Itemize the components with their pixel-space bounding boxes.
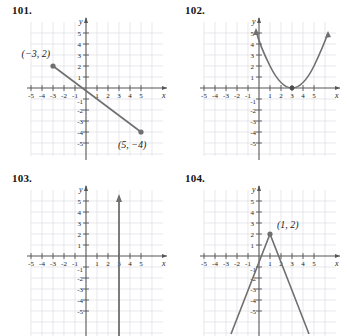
problem-panel-102: 102. (173, 0, 346, 168)
graph-104: -5 -4 -3 -2 -1 1 2 3 4 5 5 4 3 2 1 -1 -2… (173, 168, 346, 336)
y-tick--5: -5 (77, 308, 83, 316)
vertex-marker-104 (267, 231, 272, 236)
vertical-line-arrow-103 (116, 194, 122, 202)
point-label-5-neg4: (5, −4) (118, 139, 147, 151)
x-tick--2: -2 (234, 92, 240, 100)
y-axis-arrow-104 (257, 185, 261, 191)
parabola-arrow-right-102 (325, 31, 331, 38)
y-tick-4: 4 (251, 209, 255, 217)
y-axis-label-101: y (78, 17, 83, 26)
y-tick--1: -1 (77, 266, 83, 274)
x-tick-1: 1 (268, 92, 272, 100)
y-tick--5: -5 (250, 308, 256, 316)
y-tick--3: -3 (250, 286, 256, 294)
y-tick--2: -2 (77, 275, 83, 283)
x-tick-4: 4 (128, 92, 132, 100)
y-tick--3: -3 (250, 118, 256, 126)
x-tick--2: -2 (234, 260, 240, 268)
graph-101: -5 -4 -3 -2 -1 1 2 3 4 5 5 4 3 2 1 -1 -2… (0, 0, 173, 168)
y-tick--4: -4 (77, 297, 83, 305)
y-tick-2: 2 (78, 63, 82, 71)
endpoint-marker-a-101 (50, 63, 55, 68)
x-tick--2: -2 (61, 92, 67, 100)
point-label-neg3-2: (−3, 2) (22, 48, 51, 60)
y-tick--2: -2 (250, 107, 256, 115)
x-tick-5: 5 (139, 92, 143, 100)
x-tick-3: 3 (117, 92, 121, 100)
y-tick--5: -5 (77, 140, 83, 148)
y-tick-1: 1 (251, 74, 255, 82)
x-axis-arrow-104 (335, 254, 340, 258)
y-tick--1: -1 (77, 98, 83, 106)
vertex-marker-102 (290, 86, 295, 91)
y-tick--3: -3 (77, 286, 83, 294)
x-tick-5: 5 (139, 260, 143, 268)
x-tick-5: 5 (312, 260, 316, 268)
x-tick-3: 3 (290, 92, 294, 100)
x-tick--5: -5 (201, 260, 207, 268)
x-tick-2: 2 (279, 92, 283, 100)
y-tick--4: -4 (250, 129, 256, 137)
y-tick--1: -1 (250, 98, 256, 106)
textbook-graph-page: { "page": { "background_color": "#ffffff… (0, 0, 347, 336)
x-tick--2: -2 (61, 260, 67, 268)
x-axis-arrow-102 (335, 86, 340, 90)
x-tick-2: 2 (106, 92, 110, 100)
x-tick--5: -5 (28, 260, 34, 268)
x-tick-3: 3 (290, 260, 294, 268)
x-axis-label-103: x (161, 259, 166, 268)
problem-panel-101: 101. (0, 0, 173, 168)
y-tick-2: 2 (78, 231, 82, 239)
y-tick-1: 1 (78, 74, 82, 82)
x-axis-arrow-101 (162, 86, 167, 90)
x-tick--5: -5 (201, 92, 207, 100)
y-tick-5: 5 (78, 30, 82, 38)
x-tick--4: -4 (39, 260, 45, 268)
y-tick-3: 3 (251, 52, 255, 60)
y-tick-3: 3 (78, 220, 82, 228)
y-tick-2: 2 (251, 231, 255, 239)
x-axis-arrow-103 (162, 254, 167, 258)
x-axis-label-101: x (161, 91, 166, 100)
y-axis-arrow-103 (84, 185, 88, 191)
y-axis-arrow-101 (84, 17, 88, 23)
y-axis-label-103: y (78, 185, 83, 194)
y-tick-4: 4 (78, 41, 82, 49)
x-tick--3: -3 (223, 260, 229, 268)
x-tick--4: -4 (212, 260, 218, 268)
y-axis-arrow-102 (257, 17, 261, 23)
x-tick-4: 4 (301, 260, 305, 268)
graph-102: -5 -4 -3 -2 -1 1 2 3 4 5 5 4 3 2 1 -1 -2… (173, 0, 346, 168)
problem-panel-104: 104. (173, 168, 346, 336)
graph-103: -5 -4 -3 -2 -1 1 2 3 4 5 5 4 3 2 1 -1 -2… (0, 168, 173, 336)
y-tick-4: 4 (251, 41, 255, 49)
x-tick-4: 4 (128, 260, 132, 268)
point-label-1-2: (1, 2) (277, 219, 299, 231)
y-tick-5: 5 (251, 198, 255, 206)
y-axis-label-102: y (251, 17, 256, 26)
y-tick--5: -5 (250, 140, 256, 148)
x-tick--4: -4 (39, 92, 45, 100)
endpoint-marker-b-101 (138, 129, 143, 134)
x-tick--4: -4 (212, 92, 218, 100)
y-tick-3: 3 (78, 52, 82, 60)
y-axis-label-104: y (251, 185, 256, 194)
x-axis-label-104: x (334, 259, 339, 268)
y-tick-1: 1 (251, 242, 255, 250)
y-tick--4: -4 (77, 129, 83, 137)
x-tick--3: -3 (50, 260, 56, 268)
y-tick-3: 3 (251, 220, 255, 228)
y-tick-5: 5 (78, 198, 82, 206)
x-axis-label-102: x (334, 91, 339, 100)
y-tick--4: -4 (250, 297, 256, 305)
problem-panel-103: 103. (0, 168, 173, 336)
x-tick-4: 4 (301, 92, 305, 100)
y-tick-1: 1 (78, 242, 82, 250)
x-tick-5: 5 (312, 92, 316, 100)
y-tick--3: -3 (77, 118, 83, 126)
x-tick--3: -3 (50, 92, 56, 100)
y-tick-2: 2 (251, 63, 255, 71)
x-tick-1: 1 (95, 260, 99, 268)
y-tick--2: -2 (77, 107, 83, 115)
y-tick-4: 4 (78, 209, 82, 217)
